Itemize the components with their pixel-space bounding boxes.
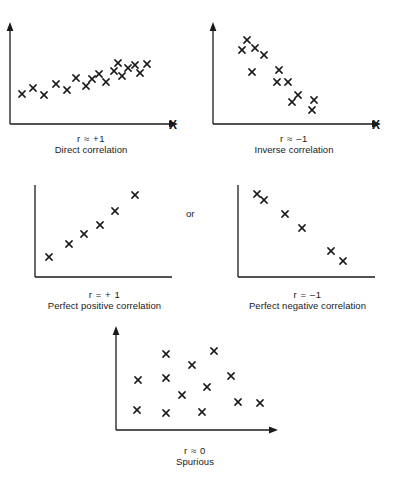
scatter-panel-direct-correlation: r ≈ +1Direct correlation bbox=[0, 6, 203, 155]
panel-caption-direct-correlation: r ≈ +1Direct correlation bbox=[0, 133, 182, 155]
x-axis-letter: X bbox=[372, 118, 380, 132]
y-axis-arrowhead bbox=[210, 22, 217, 31]
plot-area-inverse-correlation bbox=[203, 6, 385, 132]
correlation-coefficient-label: r = –1 bbox=[225, 289, 390, 300]
scatter-panel-spurious: r ≈ 0Spurious bbox=[104, 318, 307, 467]
correlation-type-label: Spurious bbox=[104, 456, 286, 467]
correlation-coefficient-label: r ≈ –1 bbox=[203, 133, 385, 144]
or-connector-label: or bbox=[186, 208, 194, 219]
scatter-panel-perfect-positive-correlation: r = + 1Perfect positive correlation bbox=[22, 162, 225, 311]
panel-caption-perfect-positive-correlation: r = + 1Perfect positive correlation bbox=[22, 289, 187, 311]
panel-caption-spurious: r ≈ 0Spurious bbox=[104, 445, 286, 467]
x-axis-arrowhead bbox=[269, 427, 278, 434]
plot-area-perfect-positive-correlation bbox=[22, 162, 204, 288]
correlation-figure: r ≈ +1Direct correlationr ≈ –1Inverse co… bbox=[0, 0, 406, 492]
panel-caption-perfect-negative-correlation: r = –1Perfect negative correlation bbox=[225, 289, 390, 311]
correlation-coefficient-label: r = + 1 bbox=[22, 289, 187, 300]
x-axis-letter: X bbox=[169, 118, 177, 132]
correlation-type-label: Perfect positive correlation bbox=[22, 300, 187, 311]
plot-area-direct-correlation bbox=[0, 6, 182, 132]
y-axis-arrowhead bbox=[113, 326, 120, 335]
plot-area-spurious bbox=[104, 318, 286, 444]
correlation-type-label: Perfect negative correlation bbox=[225, 300, 390, 311]
panel-caption-inverse-correlation: r ≈ –1Inverse correlation bbox=[203, 133, 385, 155]
plot-area-perfect-negative-correlation bbox=[225, 162, 406, 288]
correlation-coefficient-label: r ≈ +1 bbox=[0, 133, 182, 144]
scatter-panel-inverse-correlation: r ≈ –1Inverse correlation bbox=[203, 6, 406, 155]
scatter-panel-perfect-negative-correlation: r = –1Perfect negative correlation bbox=[225, 162, 406, 311]
y-axis-arrowhead bbox=[7, 22, 14, 31]
correlation-coefficient-label: r ≈ 0 bbox=[104, 445, 286, 456]
correlation-type-label: Inverse correlation bbox=[203, 144, 385, 155]
correlation-type-label: Direct correlation bbox=[0, 144, 182, 155]
